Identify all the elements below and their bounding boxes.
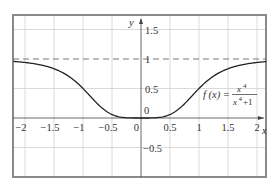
formula-denominator-tail: +1 [243, 97, 253, 107]
x-tick-label: −0.5 [98, 122, 117, 133]
origin-label-upper: 0 [144, 105, 149, 116]
x-tick-label: −2 [15, 122, 26, 133]
y-tick-label: −0.5 [143, 143, 162, 154]
x-tick-label: −1.5 [40, 122, 59, 133]
x-tick-label: 1 [196, 122, 201, 133]
y-axis-label: y [128, 17, 134, 28]
x-tick-label: 0 [134, 122, 139, 133]
formula-denominator: x [232, 97, 237, 107]
function-formula: f (x) = x 4 x 4 +1 [203, 82, 257, 107]
y-axis-arrow-icon [139, 18, 143, 24]
formula-numerator: x [236, 84, 241, 94]
formula-numerator-exp: 4 [243, 82, 247, 90]
y-tick-label: 0.5 [145, 84, 158, 95]
function-plot: −2−1.5−1−0.500.511.52−0.50.511.5 y x 0 f… [0, 0, 274, 190]
x-tick-label: 1.5 [221, 122, 234, 133]
formula-lhs: f (x) = [203, 89, 230, 101]
x-axis-label: x [261, 125, 267, 136]
x-tick-label: 2 [254, 122, 259, 133]
y-tick-label: 1.5 [145, 25, 158, 36]
x-tick-label: 0.5 [163, 122, 176, 133]
x-tick-label: −1 [73, 122, 84, 133]
y-tick-label: 1 [145, 54, 150, 65]
x-axis-arrow-icon [258, 116, 264, 120]
formula-denominator-exp: 4 [239, 95, 243, 103]
